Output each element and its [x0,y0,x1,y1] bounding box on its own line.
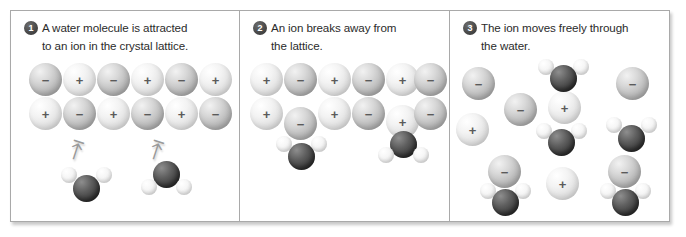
hydrogen-atom [378,147,394,163]
free-ion: + [456,113,489,146]
hydrogen-atom [176,179,192,195]
ion-charge-sign: + [250,107,283,120]
oxygen-atom [288,143,315,170]
step-number-badge-2: 2 [253,21,267,35]
oxygen-atom [612,189,639,216]
water-molecule [536,121,588,163]
ion-charge-sign: − [608,165,641,178]
lattice-ion: + [63,63,96,96]
lattice-ion: − [352,97,385,130]
ion-charge-sign: − [352,107,385,120]
panel-step-1: 1A water molecule is attracted to an ion… [11,11,239,221]
ion-charge-sign: − [616,77,649,90]
hydrogen-atom [413,147,429,163]
lattice-ion: + [29,97,62,130]
hydrogen-atom [96,167,112,183]
water-molecule [378,131,430,175]
lattice-ion: − [165,63,198,96]
lattice-ion: − [352,63,385,96]
free-ion: − [462,67,495,100]
lattice-ion: + [131,63,164,96]
panel-3-caption: 3The ion moves freely through the water. [463,19,663,55]
step-number-badge-3: 3 [463,21,477,35]
panel-2-caption-line-1: An ion breaks away from [271,21,396,34]
ion-charge-sign: + [165,107,198,120]
water-molecule [538,59,590,101]
oxygen-atom [618,125,645,152]
water-molecule [141,161,193,205]
ion-charge-sign: − [504,103,537,116]
lattice-ion: − [97,63,130,96]
panel-3-illustration: − + − + − + − − [450,55,671,221]
ion-charge-sign: + [131,73,164,86]
oxygen-atom [492,189,519,216]
lattice-ion: − [414,97,447,130]
diagram-figure: 1A water molecule is attracted to an ion… [10,10,670,222]
arrow-up-icon: ⤒ [147,136,165,164]
lattice-ion: + [250,63,283,96]
lattice-ion: − [199,97,232,130]
oxygen-atom [548,129,575,156]
lattice-ion: + [250,97,283,130]
lattice-ion: − [414,63,447,96]
ion-charge-sign: + [97,107,130,120]
ion-charge-sign: − [414,73,447,86]
lattice-ion: + [199,63,232,96]
lattice-ion: − [63,97,96,130]
panel-3-caption-line-1: The ion moves freely through [481,21,628,34]
ion-charge-sign: − [462,77,495,90]
ion-charge-sign: − [414,107,447,120]
ion-charge-sign: − [63,107,96,120]
lattice-ion: + [318,97,351,130]
ion-charge-sign: + [318,73,351,86]
ion-charge-sign: + [318,107,351,120]
lattice-ion: + [318,63,351,96]
panel-3-caption-line-2: the water. [481,37,663,55]
ion-charge-sign: − [488,165,521,178]
panel-step-3: 3The ion moves freely through the water.… [449,11,671,221]
ion-charge-sign: + [548,101,581,114]
ion-charge-sign: − [199,107,232,120]
hydrogen-atom [641,117,657,133]
panel-1-caption: 1A water molecule is attracted to an ion… [24,19,231,55]
ion-charge-sign: + [250,73,283,86]
oxygen-atom [73,175,100,202]
water-molecule [276,133,328,177]
free-ion: − [504,93,537,126]
ion-charge-sign: + [63,73,96,86]
lattice-ion: − [29,63,62,96]
oxygen-atom [550,65,577,92]
ion-charge-sign: + [456,123,489,136]
water-molecule [480,181,532,223]
lattice-ion: + [165,97,198,130]
panel-2-caption-line-2: the lattice. [271,37,441,55]
water-molecule [600,181,652,223]
step-number-badge-1: 1 [24,21,38,35]
ion-charge-sign: − [352,73,385,86]
water-molecule [61,163,113,205]
hydrogen-atom [141,179,157,195]
panel-1-illustration: − + − + − + + − + − + − ⤒ ⤒ [11,55,239,221]
free-ion: + [546,167,579,200]
lattice-ion: + [97,97,130,130]
ion-charge-sign: + [199,73,232,86]
lattice-ion: − [284,63,317,96]
water-molecule [606,115,658,157]
ion-charge-sign: + [29,107,62,120]
panel-2-illustration: + − + − + − + − + − + − [240,55,449,221]
ion-charge-sign: + [546,177,579,190]
ion-charge-sign: − [284,73,317,86]
panel-1-caption-line-2: to an ion in the crystal lattice. [42,37,231,55]
panel-2-caption: 2An ion breaks away from the lattice. [253,19,441,55]
panel-step-2: 2An ion breaks away from the lattice. + … [239,11,449,221]
ion-charge-sign: − [29,73,62,86]
ion-charge-sign: − [165,73,198,86]
ion-charge-sign: − [284,117,317,130]
lattice-ion: − [131,97,164,130]
arrow-up-icon: ⤒ [67,136,85,164]
ion-charge-sign: − [131,107,164,120]
free-ion: − [616,67,649,100]
panel-1-caption-line-1: A water molecule is attracted [42,21,187,34]
ion-charge-sign: − [97,73,130,86]
